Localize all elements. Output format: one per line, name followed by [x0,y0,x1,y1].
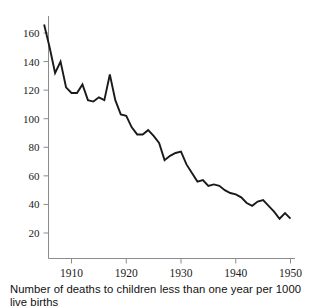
x-tick-label-1910: 1910 [60,267,83,279]
y-tick-label-100: 100 [23,113,40,125]
axis-lines [49,16,296,259]
y-tick-label-60: 60 [29,170,41,182]
y-tick-label-120: 120 [23,84,40,96]
y-axis-tick-labels: 20406080100120140160 [23,27,40,239]
x-tick-label-1930: 1930 [170,267,193,279]
y-tick-label-160: 160 [23,27,40,39]
x-tick-label-1950: 1950 [279,267,302,279]
y-tick-label-80: 80 [29,141,41,153]
x-tick-label-1940: 1940 [224,267,247,279]
data-series-line [44,24,290,218]
x-axis-tick-labels: 19101920193019401950 [60,267,302,279]
y-tick-label-40: 40 [29,198,41,210]
y-tick-label-140: 140 [23,56,40,68]
y-axis-ticks [44,33,49,233]
x-tick-label-1920: 1920 [115,267,138,279]
y-tick-label-20: 20 [29,227,41,239]
x-axis-ticks [72,259,291,264]
chart-caption: Number of deaths to children less than o… [10,283,315,308]
